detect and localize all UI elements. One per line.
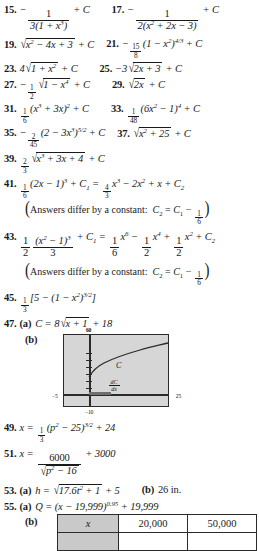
data-table: x 20,000 50,000 — [57, 514, 257, 551]
cost-curve-path — [89, 343, 168, 377]
answer-item-27: 27. −12√1 − x4 + C — [4, 78, 90, 100]
tick-label-left: −5 — [52, 393, 58, 399]
problem-number-29: 29. — [112, 79, 125, 90]
curve-label-C: C — [116, 361, 121, 370]
answer-expression-45: 13[5 − (1 − x2)3/2] — [20, 292, 96, 313]
answer-expression-15: −13(1 + x3) + C — [20, 4, 90, 32]
answer-item-51: 51. x = 6000√p2 − 16 + 3000 — [4, 448, 115, 478]
answer-expression-43: 12(x2 − 1)33 + C1 = 16x6 − 12x4 + 12x2 +… — [20, 231, 216, 259]
answer-expression-29: √2x + C — [127, 78, 164, 91]
problem-number-47: 47. — [4, 318, 17, 329]
answer-note-43: (Answers differ by a constant: C2 = C1 −… — [0, 263, 259, 287]
plot-frame: C dCdx 60 −5 −10 25 — [63, 334, 169, 407]
part-label-a: (a) — [20, 485, 32, 496]
answer-row-55a: 55. (a) Q = (x − 19,999)0.95 + 19,999 — [0, 501, 259, 512]
answer-expression-39: 23√x3 + 3x + 4 + C — [20, 152, 105, 174]
answer-row-53: 53. (a) h = √17.6t2 + 1 + 5 (b) 26 in. — [0, 484, 259, 497]
problem-number-25: 25. — [100, 63, 113, 74]
answer-expression-49: x = 13(p2 − 25)3/2 + 24 — [20, 422, 116, 443]
answer-expression-47a: C = 8√x + 1 + 18 — [35, 317, 112, 330]
answer-item-53a: 53. (a) h = √17.6t2 + 1 + 5 — [4, 484, 120, 497]
answer-expression-35: −245(2 − 3x3)5/2 + C — [20, 127, 106, 148]
answer-item-15: 15. −13(1 + x3) + C — [4, 4, 90, 32]
answer-row-31-33: 31. 16(x3 + 3x)2 + C 33. 148(6x2 − 1)4 +… — [0, 103, 259, 124]
table-row — [58, 533, 257, 551]
problem-number-55: 55. — [4, 501, 17, 512]
answer-expression-25: −3√2x + 3 + C — [115, 62, 182, 75]
problem-number-43: 43. — [4, 231, 17, 242]
problem-number-27: 27. — [4, 79, 17, 90]
note-text-43: (Answers differ by a constant: C2 = C1 −… — [25, 263, 209, 287]
answer-row-49: 49. x = 13(p2 − 25)3/2 + 24 — [0, 422, 259, 443]
problem-number-15: 15. — [4, 4, 17, 15]
problem-number-31: 31. — [4, 103, 17, 114]
derivative-label: dCdx — [107, 377, 121, 393]
answer-key-page: 15. −13(1 + x3) + C 17. −12(x2 + 2x − 3)… — [0, 4, 259, 537]
answer-row-51: 51. x = 6000√p2 − 16 + 3000 — [0, 448, 259, 478]
table-header-50000: 50,000 — [188, 515, 257, 533]
table-row: x 20,000 50,000 — [58, 515, 257, 533]
answer-row-45: 45. 13[5 − (1 − x2)3/2] — [0, 292, 259, 313]
answer-expression-41: 16(2x − 1)3 + C1 = 43x3 − 2x2 + x + C2 — [20, 178, 185, 199]
answer-item-53b: (b) 26 in. — [142, 484, 182, 495]
answer-item-23: 23. 4√1 + x2 + C — [4, 62, 78, 75]
answer-item-39: 39. 23√x3 + 3x + 4 + C — [4, 152, 105, 174]
part-label-a: (a) — [20, 501, 32, 512]
problem-number-45: 45. — [4, 292, 17, 303]
part-label-b: (b) — [25, 334, 37, 345]
answer-row-19-21: 19. √x2 − 4x + 3 + C 21. −158(1 − x2)4/3… — [0, 38, 259, 59]
answer-row-43: 43. 12(x2 − 1)33 + C1 = 16x6 − 12x4 + 12… — [0, 231, 259, 259]
answer-row-23-25: 23. 4√1 + x2 + C 25. −3√2x + 3 + C — [0, 62, 259, 75]
table-cell-value — [119, 533, 188, 551]
problem-number-53: 53. — [4, 485, 17, 496]
problem-number-41: 41. — [4, 178, 17, 189]
answer-row-27-29: 27. −12√1 − x4 + C 29. √2x + C — [0, 78, 259, 100]
answer-expression-53b: 26 in. — [158, 484, 181, 495]
answer-item-55a: 55. (a) Q = (x − 19,999)0.95 + 19,999 — [4, 501, 158, 512]
answer-expression-27: −12√1 − x4 + C — [20, 78, 90, 100]
answer-expression-51: x = 6000√p2 − 16 + 3000 — [20, 448, 116, 478]
answer-item-37: 37. √x2 + 25 + C — [117, 127, 191, 140]
table-header-20000: 20,000 — [119, 515, 188, 533]
answer-item-49: 49. x = 13(p2 − 25)3/2 + 24 — [4, 422, 115, 443]
answer-item-29: 29. √2x + C — [112, 78, 165, 91]
part-label-a: (a) — [20, 318, 32, 329]
graph-block-47b: C dCdx 60 −5 −10 25 — [63, 334, 259, 407]
part-label-b: (b) — [142, 484, 154, 495]
note-text-41: (Answers differ by a constant: C2 = C1 −… — [25, 201, 209, 225]
tick-label-right: 25 — [176, 393, 181, 399]
answer-item-17: 17. −12(x2 + 2x − 3) + C — [112, 4, 219, 32]
part-label-b: (b) — [25, 516, 37, 527]
problem-number-21: 21. — [106, 38, 119, 49]
problem-number-49: 49. — [4, 422, 17, 433]
answer-row-15-17: 15. −13(1 + x3) + C 17. −12(x2 + 2x − 3)… — [0, 4, 259, 32]
tick-label-bottom: −10 — [85, 409, 93, 415]
problem-number-19: 19. — [4, 39, 17, 50]
problem-number-33: 33. — [111, 103, 124, 114]
answer-row-39: 39. 23√x3 + 3x + 4 + C — [0, 152, 259, 174]
answer-item-33: 33. 148(6x2 − 1)4 + C — [111, 103, 200, 124]
answer-expression-21: −158(1 − x2)4/3 + C — [122, 38, 203, 59]
cost-curve-svg — [64, 335, 170, 408]
answer-expression-17: −12(x2 + 2x − 3) + C — [127, 4, 219, 32]
answer-item-41: 41. 16(2x − 1)3 + C1 = 43x3 − 2x2 + x + … — [4, 178, 184, 199]
problem-number-51: 51. — [4, 448, 17, 459]
answer-expression-33: 148(6x2 − 1)4 + C — [126, 103, 200, 124]
answer-expression-55a: Q = (x − 19,999)0.95 + 19,999 — [35, 501, 158, 512]
answer-expression-53a: h = √17.6t2 + 1 + 5 — [35, 484, 120, 497]
answer-expression-23: 4√1 + x2 + C — [20, 62, 78, 75]
answer-expression-19: √x2 − 4x + 3 + C — [20, 38, 95, 51]
answer-row-35-37: 35. −245(2 − 3x3)5/2 + C 37. √x2 + 25 + … — [0, 127, 259, 148]
answer-item-43: 43. 12(x2 − 1)33 + C1 = 16x6 − 12x4 + 12… — [4, 231, 215, 259]
answer-item-35: 35. −245(2 − 3x3)5/2 + C — [4, 127, 105, 148]
answer-item-47a: 47. (a) C = 8√x + 1 + 18 — [4, 317, 112, 330]
answer-item-19: 19. √x2 − 4x + 3 + C — [4, 38, 94, 51]
problem-number-39: 39. — [4, 153, 17, 164]
table-cell-label — [58, 533, 119, 551]
problem-number-35: 35. — [4, 127, 17, 138]
answer-item-21: 21. −158(1 − x2)4/3 + C — [106, 38, 202, 59]
answer-item-31: 31. 16(x3 + 3x)2 + C — [4, 103, 89, 124]
answer-item-25: 25. −3√2x + 3 + C — [100, 62, 182, 75]
data-table-block-55b: x 20,000 50,000 — [57, 514, 259, 551]
answer-row-41: 41. 16(2x − 1)3 + C1 = 43x3 − 2x2 + x + … — [0, 178, 259, 199]
